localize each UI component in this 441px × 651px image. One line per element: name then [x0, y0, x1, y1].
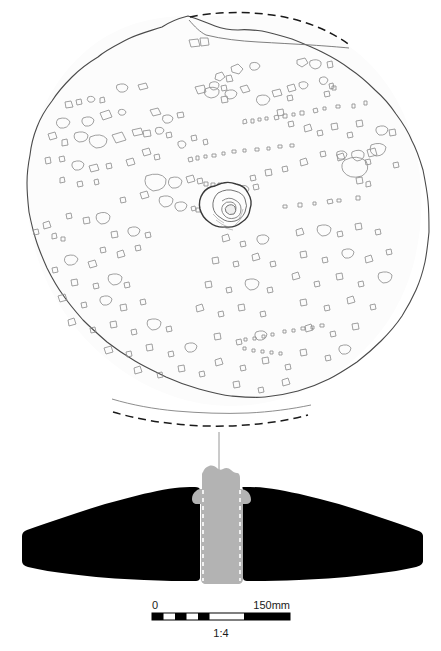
scale-bar-track	[152, 613, 290, 620]
scale-bar-segment	[244, 613, 290, 620]
scale-bar-segment	[198, 613, 210, 620]
illustration-canvas: 0 150mm 1:4	[0, 0, 441, 651]
scale-end-label: 150mm	[253, 599, 290, 611]
scale-start-label: 0	[152, 599, 158, 611]
scale-ratio-label: 1:4	[213, 627, 228, 639]
scale-bar-segment	[152, 613, 164, 620]
scale-bar-segment	[175, 613, 187, 620]
figure-root: 0 150mm 1:4	[0, 0, 441, 651]
perforation-hole	[225, 205, 236, 215]
